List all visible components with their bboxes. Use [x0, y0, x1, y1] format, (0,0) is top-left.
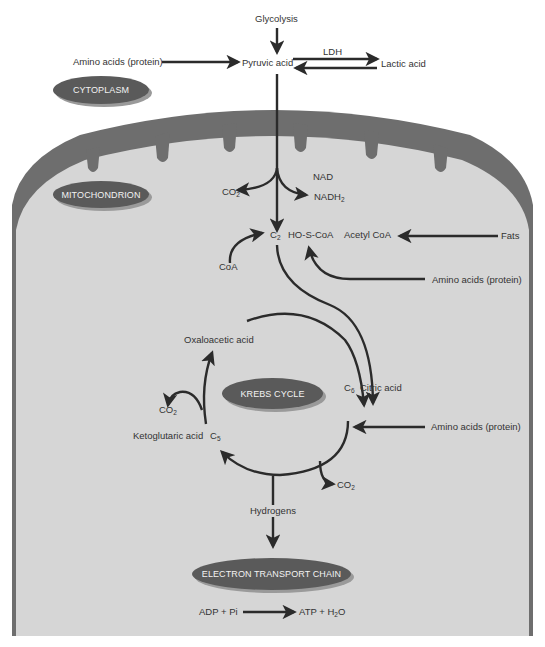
nadh2-label: NADH2 [314, 192, 345, 204]
fats-label: Fats [501, 231, 519, 241]
amino-acids-label-cytoplasm: Amino acids (protein) [73, 57, 163, 67]
lactic-acid-label: Lactic acid [381, 59, 426, 69]
acetyl-coa-label: Acetyl CoA [344, 230, 391, 240]
adp-pi-label: ADP + Pi [199, 607, 238, 617]
oxaloacetic-acid-label: Oxaloacetic acid [184, 335, 254, 345]
ldh-label: LDH [323, 47, 342, 57]
glycolysis-label: Glycolysis [255, 14, 298, 24]
metabolism-diagram: CYTOPLASM MITOCHONDRION KREBS CYCLE ELEC… [0, 0, 545, 647]
c2-label: C2 [270, 230, 281, 242]
c5-label: C5 [210, 431, 221, 443]
coa-label: CoA [219, 262, 237, 272]
atp-h2o-label: ATP + H2O [299, 607, 345, 619]
nad-label: NAD [313, 172, 333, 182]
cytoplasm-label: CYTOPLASM [53, 76, 149, 104]
c6-label: C6 [344, 383, 355, 395]
mitochondrion-label: MITOCHONDRION [53, 181, 149, 208]
co2-label-top: CO2 [222, 187, 240, 199]
ho-s-coa-label: HO-S-CoA [288, 230, 333, 240]
citric-acid-label: Citric acid [360, 383, 402, 393]
amino-acids-label-krebs: Amino acids (protein) [431, 422, 521, 432]
krebs-cycle-label: KREBS CYCLE [222, 378, 323, 409]
hydrogens-label: Hydrogens [250, 505, 296, 517]
ketoglutaric-acid-label: Ketoglutaric acid [133, 431, 203, 441]
co2-label-bottom: CO2 [337, 480, 355, 492]
pyruvic-acid-label: Pyruvic acid [242, 58, 293, 68]
co2-label-left: CO2 [159, 405, 177, 417]
amino-acids-label-mito: Amino acids (protein) [432, 275, 522, 285]
etc-label: ELECTRON TRANSPORT CHAIN [192, 558, 351, 590]
